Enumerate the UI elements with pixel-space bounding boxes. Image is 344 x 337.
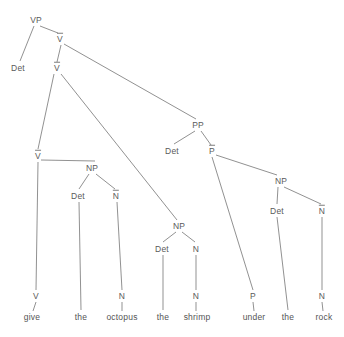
tree-node-np2: NP bbox=[173, 222, 185, 231]
overbar-icon bbox=[319, 204, 325, 205]
tree-node-vbar1: V bbox=[57, 35, 63, 44]
tree-node-np3: NP bbox=[275, 177, 287, 186]
syntax-tree-diagram: VPDetVVVNPDetNNPDetNPPDetPNPDetNVNNPNgiv… bbox=[0, 0, 344, 337]
tree-branch-vbar3-to-v-leaf bbox=[36, 162, 38, 290]
tree-node-label-p-leaf: P bbox=[250, 292, 256, 301]
tree-leaf-w-the3: the bbox=[282, 313, 294, 322]
tree-branch-vbar2-to-vbar3 bbox=[38, 74, 54, 149]
tree-branch-pp-to-det4 bbox=[174, 131, 195, 144]
tree-node-label-det4: Det bbox=[165, 147, 179, 156]
overbar-icon bbox=[35, 149, 41, 150]
tree-branch-np2-to-det3 bbox=[163, 232, 176, 242]
tree-branch-np2-to-n2 bbox=[182, 232, 195, 242]
tree-branch-det5-to-w-the3 bbox=[277, 217, 288, 310]
tree-branch-pp-to-pbar bbox=[201, 131, 211, 145]
tree-branch-np3-to-det5 bbox=[277, 187, 278, 204]
tree-node-label-nbar1: N bbox=[113, 192, 119, 201]
tree-branch-p-leaf-to-w-under bbox=[253, 302, 254, 311]
tree-node-n-leaf2: N bbox=[193, 292, 199, 301]
tree-node-label-det5: Det bbox=[270, 207, 284, 216]
tree-branch-vp-to-det1 bbox=[20, 26, 34, 61]
tree-node-n2: N bbox=[193, 245, 199, 254]
tree-leaf-w-the2: the bbox=[157, 313, 169, 322]
tree-edges bbox=[0, 0, 344, 337]
tree-branch-np1-to-nbar1 bbox=[96, 174, 115, 189]
tree-leaf-w-shrimp: shrimp bbox=[184, 313, 211, 322]
overbar-icon bbox=[57, 32, 63, 33]
tree-node-label-det3: Det bbox=[155, 245, 169, 254]
overbar-icon bbox=[209, 144, 215, 145]
tree-node-label-det1: Det bbox=[11, 64, 25, 73]
tree-branch-vbar3-to-np1 bbox=[41, 160, 95, 161]
tree-node-nbar2: N bbox=[319, 207, 325, 216]
tree-node-n-leaf3: N bbox=[319, 292, 325, 301]
tree-node-label-np2: NP bbox=[173, 222, 185, 231]
tree-leaf-w-rock: rock bbox=[316, 313, 333, 322]
tree-node-det1: Det bbox=[11, 64, 25, 73]
tree-node-label-vbar1: V bbox=[57, 35, 63, 44]
tree-node-n-leaf1: N bbox=[119, 292, 125, 301]
tree-node-label-vp: VP bbox=[30, 16, 42, 25]
tree-node-pbar: P bbox=[209, 147, 215, 156]
tree-node-label-n-leaf1: N bbox=[119, 292, 125, 301]
tree-node-np1: NP bbox=[86, 164, 98, 173]
tree-node-label-nbar2: N bbox=[319, 207, 325, 216]
tree-node-nbar1: N bbox=[113, 192, 119, 201]
tree-branch-vbar1-to-vbar2 bbox=[57, 45, 61, 62]
tree-node-label-v-leaf: V bbox=[33, 292, 39, 301]
tree-branch-n-leaf3-to-w-rock bbox=[322, 302, 323, 311]
tree-node-label-vbar2: V bbox=[54, 64, 60, 73]
tree-node-label-det2: Det bbox=[71, 192, 85, 201]
tree-branch-pbar-to-np3 bbox=[216, 155, 277, 175]
tree-branch-np1-to-det2 bbox=[79, 174, 89, 189]
tree-node-label-pbar: P bbox=[209, 147, 215, 156]
tree-node-det3: Det bbox=[155, 245, 169, 254]
tree-branch-v-leaf-to-w-give bbox=[33, 302, 36, 311]
tree-branch-det2-to-w-the1 bbox=[79, 202, 81, 310]
tree-branch-vbar1-to-pp bbox=[64, 44, 196, 119]
tree-node-label-np1: NP bbox=[86, 164, 98, 173]
overbar-icon bbox=[54, 61, 60, 62]
tree-leaf-w-octopus: octopus bbox=[106, 313, 137, 322]
tree-branch-np3-to-nbar2 bbox=[284, 187, 321, 204]
tree-leaf-w-the1: the bbox=[75, 313, 87, 322]
tree-node-vbar2: V bbox=[54, 64, 60, 73]
tree-leaf-w-under: under bbox=[243, 313, 266, 322]
tree-node-label-np3: NP bbox=[275, 177, 287, 186]
tree-node-label-vbar3: V bbox=[35, 152, 41, 161]
tree-node-label-pp: PP bbox=[192, 121, 204, 130]
tree-leaf-w-give: give bbox=[24, 313, 40, 322]
tree-node-det2: Det bbox=[71, 192, 85, 201]
tree-node-vp: VP bbox=[30, 16, 42, 25]
tree-node-label-n-leaf2: N bbox=[193, 292, 199, 301]
tree-node-pp: PP bbox=[192, 121, 204, 130]
tree-branch-pbar-to-p-leaf bbox=[212, 157, 253, 290]
overbar-icon bbox=[113, 189, 119, 190]
tree-node-det4: Det bbox=[165, 147, 179, 156]
tree-branch-nbar1-to-n-leaf1 bbox=[117, 202, 122, 290]
tree-node-label-n2: N bbox=[193, 245, 199, 254]
tree-node-label-n-leaf3: N bbox=[319, 292, 325, 301]
tree-node-det5: Det bbox=[270, 207, 284, 216]
tree-node-vbar3: V bbox=[35, 152, 41, 161]
tree-branch-vp-to-vbar1 bbox=[40, 26, 58, 33]
tree-node-v-leaf: V bbox=[33, 292, 39, 301]
tree-node-p-leaf: P bbox=[250, 292, 256, 301]
